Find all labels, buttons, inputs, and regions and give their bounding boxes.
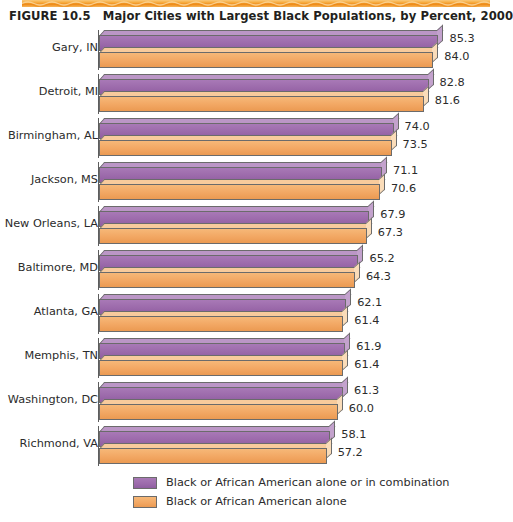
bar-alone <box>99 52 433 68</box>
bar-value-label: 81.6 <box>435 94 460 107</box>
bar-front-face <box>99 272 355 288</box>
bar-value-label: 57.2 <box>338 446 363 459</box>
legend-swatch-alone <box>133 496 157 508</box>
bar-alone <box>99 448 327 464</box>
bar-value-label: 84.0 <box>444 50 469 63</box>
bar-group-row: New Orleans, LA67.967.3 <box>0 204 490 248</box>
decorative-top-band <box>22 0 490 7</box>
legend-item-combination: Black or African American alone or in co… <box>133 476 483 492</box>
wave-pattern-icon <box>22 0 490 7</box>
category-label: Atlanta, GA <box>0 305 98 318</box>
bar-value-label: 60.0 <box>349 402 374 415</box>
bar-group-row: Gary, IN85.384.0 <box>0 28 490 72</box>
bar-front-face <box>99 360 343 376</box>
bar-front-face <box>99 448 327 464</box>
category-label: Detroit, MI <box>0 85 98 98</box>
bar-group-row: Jackson, MS71.170.6 <box>0 160 490 204</box>
bar-alone <box>99 316 343 332</box>
category-label: Jackson, MS <box>0 173 98 186</box>
figure-number: FIGURE 10.5 <box>9 9 91 23</box>
category-label: Memphis, TN <box>0 349 98 362</box>
bar-value-label: 67.9 <box>380 208 405 221</box>
bar-alone <box>99 360 343 376</box>
bar-value-label: 61.4 <box>354 314 379 327</box>
bar-front-face <box>99 96 424 112</box>
bar-front-face <box>99 184 380 200</box>
bar-value-label: 65.2 <box>369 252 394 265</box>
bar-alone <box>99 140 392 156</box>
bar-group-row: Birmingham, AL74.073.5 <box>0 116 490 160</box>
bar-group-row: Richmond, VA58.157.2 <box>0 424 490 468</box>
bar-front-face <box>99 404 338 420</box>
bar-value-label: 67.3 <box>378 226 403 239</box>
category-label: Birmingham, AL <box>0 129 98 142</box>
legend-swatch-combination <box>133 477 157 489</box>
category-label: Baltimore, MD <box>0 261 98 274</box>
bar-alone <box>99 228 367 244</box>
bar-value-label: 61.3 <box>354 384 379 397</box>
bar-group-row: Washington, DC61.360.0 <box>0 380 490 424</box>
bar-value-label: 74.0 <box>405 120 430 133</box>
bar-group-row: Memphis, TN61.961.4 <box>0 336 490 380</box>
figure-title: FIGURE 10.5Major Cities with Largest Bla… <box>9 9 487 25</box>
legend-label-alone: Black or African American alone <box>166 495 347 508</box>
category-label: New Orleans, LA <box>0 217 98 230</box>
bar-group-row: Atlanta, GA62.161.4 <box>0 292 490 336</box>
category-label: Gary, IN <box>0 41 98 54</box>
page-title: Major Cities with Largest Black Populati… <box>103 9 513 23</box>
bar-value-label: 62.1 <box>357 296 382 309</box>
bar-chart: Gary, IN85.384.0Detroit, MI82.881.6Birmi… <box>0 28 490 468</box>
category-label: Washington, DC <box>0 393 98 406</box>
bar-alone <box>99 184 380 200</box>
bar-alone <box>99 272 355 288</box>
bar-front-face <box>99 140 392 156</box>
bar-alone <box>99 404 338 420</box>
bar-value-label: 61.4 <box>354 358 379 371</box>
bar-front-face <box>99 52 433 68</box>
bar-alone <box>99 96 424 112</box>
bar-front-face <box>99 316 343 332</box>
bar-value-label: 70.6 <box>391 182 416 195</box>
bar-group-row: Baltimore, MD65.264.3 <box>0 248 490 292</box>
bar-value-label: 85.3 <box>449 32 474 45</box>
bar-value-label: 71.1 <box>393 164 418 177</box>
legend-label-combination: Black or African American alone or in co… <box>166 476 450 489</box>
bar-value-label: 58.1 <box>341 428 366 441</box>
category-label: Richmond, VA <box>0 437 98 450</box>
bar-value-label: 64.3 <box>366 270 391 283</box>
bar-value-label: 61.9 <box>356 340 381 353</box>
chart-legend: Black or African American alone or in co… <box>133 476 483 514</box>
legend-item-alone: Black or African American alone <box>133 495 483 511</box>
bar-front-face <box>99 228 367 244</box>
bar-value-label: 73.5 <box>403 138 428 151</box>
bar-value-label: 82.8 <box>440 76 465 89</box>
bar-group-row: Detroit, MI82.881.6 <box>0 72 490 116</box>
